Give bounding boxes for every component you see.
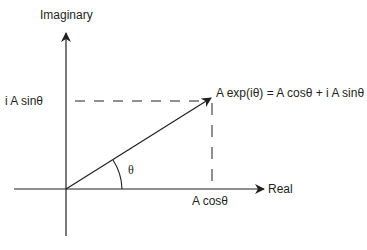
argand-diagram bbox=[0, 0, 367, 250]
real-projection-label: A cosθ bbox=[192, 194, 228, 208]
angle-label: θ bbox=[128, 163, 134, 177]
angle-arc bbox=[113, 160, 122, 189]
imag-projection-label: i A sinθ bbox=[5, 94, 43, 108]
phasor-vector bbox=[66, 98, 211, 189]
real-axis-label: Real bbox=[268, 182, 293, 196]
vector-equation-label: A exp(iθ) = A cosθ + i A sinθ bbox=[216, 86, 364, 100]
imaginary-axis-label: Imaginary bbox=[40, 8, 93, 22]
